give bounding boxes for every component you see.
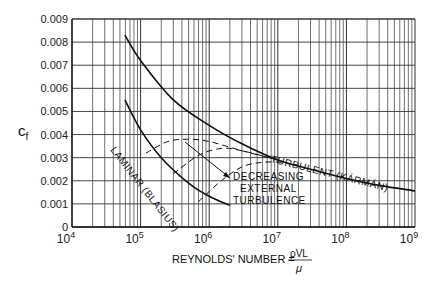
x-tick-label: 106	[194, 230, 212, 246]
x-axis-label: REYNOLDS' NUMBER =	[172, 253, 295, 265]
y-tick-label: 0.003	[40, 152, 68, 164]
transition-curve	[146, 139, 278, 160]
transition-curve	[173, 148, 277, 174]
x-tick-label: 107	[263, 230, 281, 246]
y-tick-label: 0.002	[40, 175, 68, 187]
y-tick-label: 0.005	[40, 105, 68, 117]
y-tick-label: 0.007	[40, 59, 68, 71]
x-axis-label-denominator: μ	[295, 262, 302, 274]
axes: 00.0010.0020.0030.0040.0050.0060.0070.00…	[40, 13, 418, 246]
decreasing-label-3: TURBULENCE	[233, 195, 306, 206]
y-tick-label: 0.009	[40, 13, 68, 25]
x-tick-label: 108	[331, 230, 349, 246]
y-axis-label: cf	[18, 122, 29, 142]
y-tick-label: 0.001	[40, 198, 68, 210]
y-tick-label: 0.008	[40, 36, 68, 48]
x-tick-label: 109	[400, 230, 418, 246]
friction-coefficient-chart: 00.0010.0020.0030.0040.0050.0060.0070.00…	[0, 0, 443, 281]
x-tick-label: 105	[125, 230, 143, 246]
y-tick-label: 0.004	[40, 129, 68, 141]
decreasing-label-2: EXTERNAL	[240, 183, 297, 194]
turbulent-curve	[125, 35, 415, 191]
decreasing-label-1: DECREASING	[233, 171, 304, 182]
x-tick-label: 104	[57, 230, 75, 246]
x-axis-label-numerator: ρVL	[290, 248, 308, 259]
y-tick-label: 0.006	[40, 82, 68, 94]
